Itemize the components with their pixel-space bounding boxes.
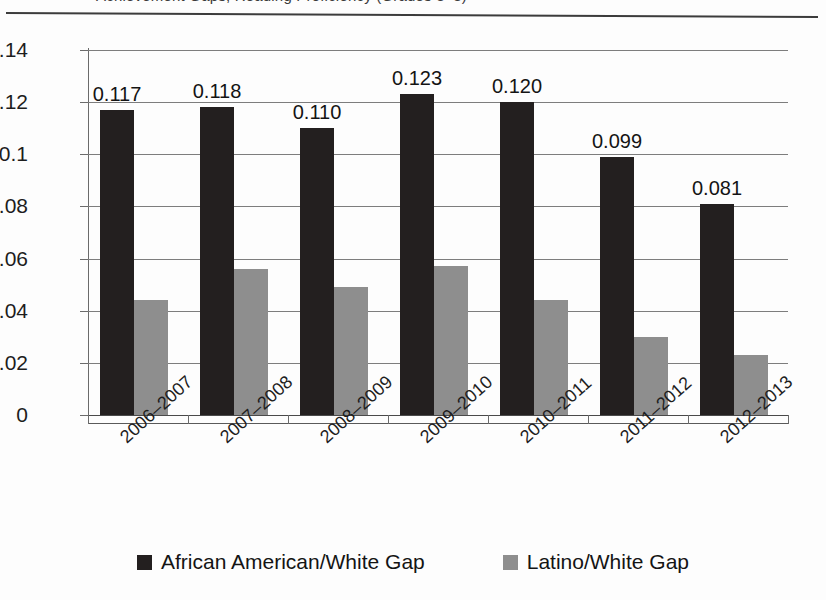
legend-label: African American/White Gap xyxy=(161,550,425,574)
bar xyxy=(700,204,734,415)
bar xyxy=(600,157,634,415)
y-axis-tick-label: 0.02 xyxy=(0,351,28,375)
bar xyxy=(500,102,534,415)
gridline xyxy=(88,154,788,155)
bar xyxy=(300,128,334,415)
chart-page: Achievement Gaps, Reading Proficiency (G… xyxy=(0,0,826,600)
chart-canvas: 00.020.040.060.080.10.120.14 0.1170.1180… xyxy=(0,0,826,600)
legend-label: Latino/White Gap xyxy=(527,550,689,574)
bar xyxy=(100,110,134,415)
y-axis-tick-label: 0.06 xyxy=(0,247,28,271)
y-axis-tick-label: 0.08 xyxy=(0,194,28,218)
bar-value-label: 0.099 xyxy=(592,130,642,153)
x-axis-tick-mark xyxy=(788,415,789,424)
chart-legend: African American/White GapLatino/White G… xyxy=(0,550,826,574)
gridline xyxy=(88,206,788,207)
gridline xyxy=(88,50,788,51)
bar-value-label: 0.118 xyxy=(193,80,242,103)
y-axis-tick-label: 0.1 xyxy=(0,142,28,166)
x-axis-tick-mark xyxy=(288,415,289,424)
x-axis-tick-mark xyxy=(88,415,89,424)
y-axis-tick-label: 0.14 xyxy=(0,38,28,62)
bar-value-label: 0.081 xyxy=(692,177,742,200)
bar xyxy=(400,94,434,415)
y-axis-tick-label: 0.04 xyxy=(0,299,28,323)
x-axis-tick-mark xyxy=(388,415,389,424)
legend-swatch-icon xyxy=(503,555,518,570)
bar-value-label: 0.110 xyxy=(293,101,342,124)
legend-swatch-icon xyxy=(137,555,152,570)
bar-value-label: 0.123 xyxy=(392,67,442,90)
x-axis-tick-mark xyxy=(188,415,189,424)
bar xyxy=(200,107,234,415)
x-axis-tick-mark xyxy=(488,415,489,424)
x-axis-tick-mark xyxy=(688,415,689,424)
x-axis-tick-mark xyxy=(588,415,589,424)
y-axis-tick-label: 0 xyxy=(16,403,28,427)
gridline xyxy=(88,259,788,260)
legend-item[interactable]: Latino/White Gap xyxy=(503,550,689,574)
plot-area: 0.1170.1180.1100.1230.1200.0990.081 xyxy=(88,50,788,415)
bar-value-label: 0.120 xyxy=(492,75,542,98)
bar-value-label: 0.117 xyxy=(93,83,142,106)
legend-item[interactable]: African American/White Gap xyxy=(137,550,425,574)
y-axis-tick-label: 0.12 xyxy=(0,90,28,114)
